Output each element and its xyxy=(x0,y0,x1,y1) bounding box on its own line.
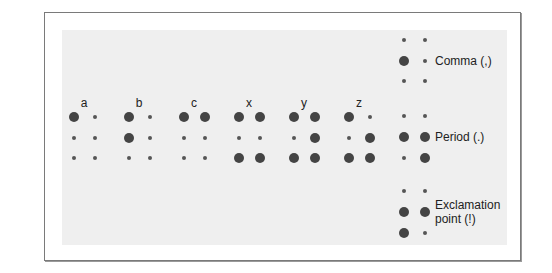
dot-1-raised xyxy=(69,112,79,122)
dot-5-flat xyxy=(93,136,97,140)
exclamation-label-line2: point (!) xyxy=(435,212,476,226)
dot-6-flat xyxy=(423,231,427,235)
dot-4-flat xyxy=(423,189,427,193)
dot-4-flat xyxy=(93,115,97,119)
letter-label-y: y xyxy=(301,96,307,110)
dot-6-flat xyxy=(93,156,97,160)
dot-2-raised xyxy=(399,207,409,217)
dot-4-raised xyxy=(200,112,210,122)
dot-2-raised xyxy=(399,132,409,142)
exclamation-label-line1: Exclamation xyxy=(435,198,500,212)
dot-3-flat xyxy=(182,156,186,160)
dot-5-flat xyxy=(258,136,262,140)
dot-2-flat xyxy=(292,136,296,140)
dot-1-raised xyxy=(344,112,354,122)
dot-1-flat xyxy=(402,189,406,193)
dot-5-flat xyxy=(203,136,207,140)
dot-5-raised xyxy=(310,133,320,143)
dot-1-raised xyxy=(234,112,244,122)
dot-5-flat xyxy=(148,136,152,140)
dot-4-raised xyxy=(310,112,320,122)
letter-label-a: a xyxy=(81,96,88,110)
dot-6-raised xyxy=(365,153,375,163)
dot-3-raised xyxy=(344,153,354,163)
dot-6-raised xyxy=(310,153,320,163)
dot-2-flat xyxy=(182,136,186,140)
dot-3-flat xyxy=(72,156,76,160)
dot-1-raised xyxy=(179,112,189,122)
dot-3-raised xyxy=(399,228,409,238)
dot-3-flat xyxy=(402,79,406,83)
letter-label-b: b xyxy=(136,96,143,110)
dot-3-flat xyxy=(127,156,131,160)
dot-2-raised xyxy=(399,56,409,66)
dot-4-flat xyxy=(423,38,427,42)
dot-6-flat xyxy=(148,156,152,160)
dot-1-raised xyxy=(124,112,134,122)
dot-4-raised xyxy=(255,112,265,122)
dot-2-flat xyxy=(347,136,351,140)
dot-5-raised xyxy=(420,207,430,217)
period-label: Period (.) xyxy=(435,130,484,144)
dot-3-flat xyxy=(402,156,406,160)
dot-3-raised xyxy=(234,153,244,163)
dot-1-flat xyxy=(402,38,406,42)
dot-5-flat xyxy=(423,59,427,63)
dot-1-raised xyxy=(289,112,299,122)
dot-5-raised xyxy=(420,132,430,142)
comma-label: Comma (,) xyxy=(435,54,492,68)
dot-4-flat xyxy=(423,114,427,118)
dot-2-flat xyxy=(72,136,76,140)
dot-6-raised xyxy=(420,153,430,163)
dot-5-raised xyxy=(365,133,375,143)
letter-label-c: c xyxy=(191,96,197,110)
dot-2-raised xyxy=(124,133,134,143)
dot-2-flat xyxy=(237,136,241,140)
dot-4-flat xyxy=(368,115,372,119)
dot-3-raised xyxy=(289,153,299,163)
dot-6-raised xyxy=(255,153,265,163)
dot-6-flat xyxy=(203,156,207,160)
dot-1-flat xyxy=(402,114,406,118)
letter-label-x: x xyxy=(246,96,252,110)
dot-4-flat xyxy=(148,115,152,119)
letter-label-z: z xyxy=(356,96,362,110)
dot-6-flat xyxy=(423,79,427,83)
